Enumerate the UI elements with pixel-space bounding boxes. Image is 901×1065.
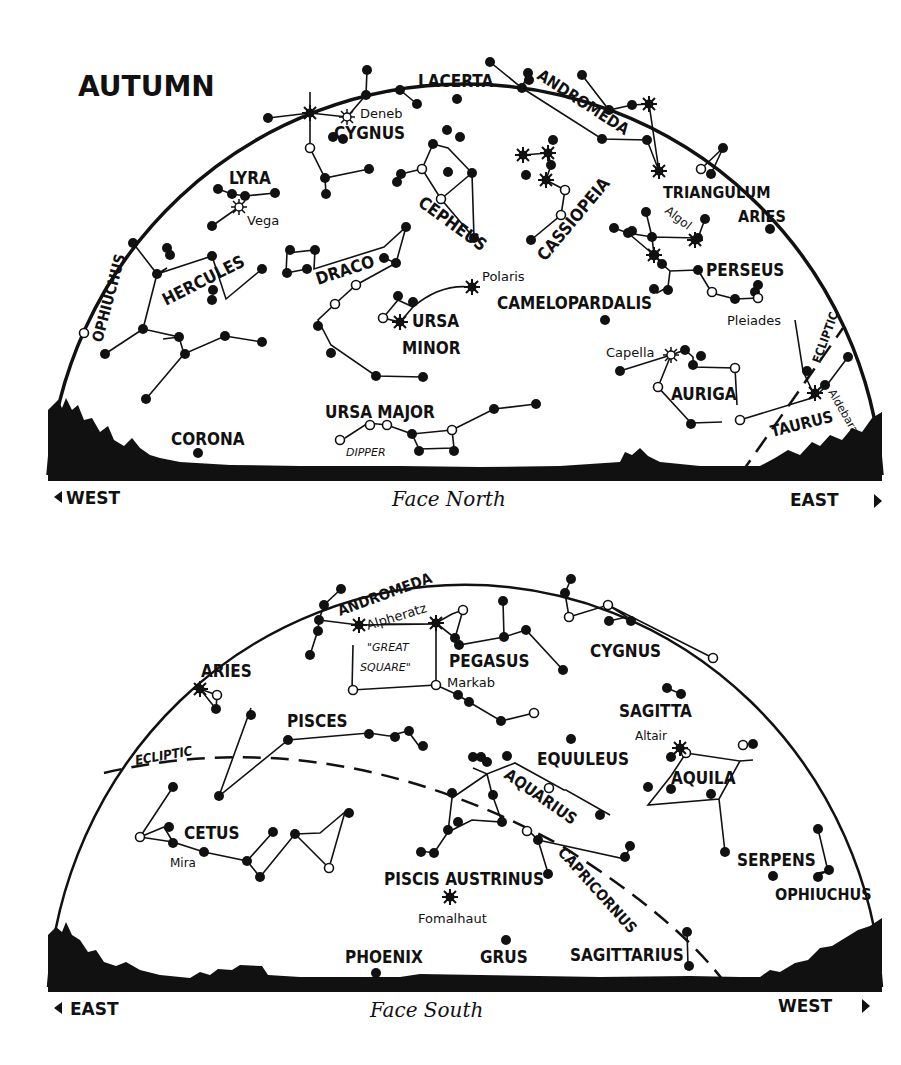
label-draco: DRACO — [313, 251, 377, 289]
north-bright-stars — [231, 96, 823, 401]
label-pisces: PISCES — [287, 711, 348, 731]
dipper-note: DIPPER — [346, 446, 386, 459]
south-right-direction: WEST — [778, 996, 833, 1016]
star-label-vega: Vega — [247, 213, 279, 228]
label-aries-south: ARIES — [201, 661, 252, 681]
star-label-polaris: Polaris — [482, 269, 525, 284]
north-stars — [100, 57, 853, 458]
label-sagitta: SAGITTA — [619, 701, 692, 721]
label-grus: GRUS — [480, 947, 528, 967]
north-constellation-labels: LACERTA ANDROMEDA CYGNUS LYRA CEPHEUS CA… — [88, 65, 841, 449]
star-label-algol: Algol — [662, 203, 694, 232]
north-facing-label: Face North — [391, 487, 506, 511]
east-arrow-icon-south — [54, 1002, 62, 1014]
west-arrow-icon-south — [862, 999, 870, 1013]
label-aquila: AQUILA — [671, 768, 736, 788]
north-sky-map: LACERTA ANDROMEDA CYGNUS LYRA CEPHEUS CA… — [48, 57, 882, 511]
season-title: AUTUMN — [78, 70, 215, 103]
label-auriga: AURIGA — [671, 384, 737, 404]
label-ursa-minor-1: URSA — [412, 311, 459, 331]
south-left-direction: EAST — [70, 999, 119, 1019]
east-arrow-icon — [874, 494, 882, 508]
label-piscis-austrinus: PISCIS AUSTRINUS — [384, 869, 544, 889]
south-facing-label: Face South — [369, 998, 483, 1022]
label-lacerta: LACERTA — [418, 71, 493, 91]
label-ursa-minor-2: MINOR — [402, 338, 461, 358]
label-cepheus: CEPHEUS — [415, 192, 491, 255]
label-corona: CORONA — [171, 429, 245, 449]
star-label-capella: Capella — [606, 345, 654, 360]
south-sky-map: ANDROMEDA PEGASUS CYGNUS ARIES SAGITTA P… — [48, 569, 882, 1022]
label-cassiopeia: CASSIOPEIA — [533, 173, 614, 264]
label-ophiuchus: OPHIUCHUS — [88, 252, 129, 344]
label-cetus: CETUS — [184, 823, 240, 843]
star-label-mira: Mira — [170, 856, 196, 870]
great-square-note-1: "GREAT — [367, 641, 410, 654]
label-aries: ARIES — [738, 207, 786, 226]
label-cygnus: CYGNUS — [334, 123, 405, 143]
west-arrow-icon — [54, 491, 62, 503]
label-serpens: SERPENS — [737, 850, 816, 870]
label-sagittarius: SAGITTARIUS — [570, 945, 684, 965]
label-taurus: TAURUS — [768, 407, 835, 441]
label-pegasus: PEGASUS — [449, 651, 530, 671]
label-hercules: HERCULES — [159, 251, 248, 310]
label-ursa-major: URSA MAJOR — [325, 402, 435, 422]
star-label-deneb: Deneb — [360, 106, 403, 121]
north-right-direction: EAST — [790, 490, 839, 510]
label-equuleus: EQUULEUS — [537, 749, 629, 769]
south-horizon-silhouette — [48, 918, 882, 992]
star-label-altair: Altair — [635, 729, 667, 743]
north-left-direction: WEST — [66, 488, 121, 508]
label-perseus: PERSEUS — [706, 260, 784, 280]
autumn-star-chart: AUTUMN — [0, 0, 901, 1065]
label-cygnus-south: CYGNUS — [590, 641, 661, 661]
great-square-note-2: SQUARE" — [360, 661, 411, 674]
label-aquarius: AQUARIUS — [501, 765, 581, 829]
label-lyra: LYRA — [229, 168, 271, 188]
label-phoenix: PHOENIX — [345, 947, 423, 967]
star-label-markab: Markab — [447, 675, 495, 690]
label-ecliptic-south: ECLIPTIC — [134, 743, 194, 768]
label-ecliptic-north: ECLIPTIC — [810, 310, 841, 365]
star-label-pleiades: Pleiades — [727, 313, 781, 328]
label-triangulum: TRIANGULUM — [663, 183, 771, 202]
star-label-fomalhaut: Fomalhaut — [418, 911, 487, 926]
label-ophiuchus-south: OPHIUCHUS — [775, 885, 872, 904]
label-camelopardalis: CAMELOPARDALIS — [497, 293, 652, 313]
